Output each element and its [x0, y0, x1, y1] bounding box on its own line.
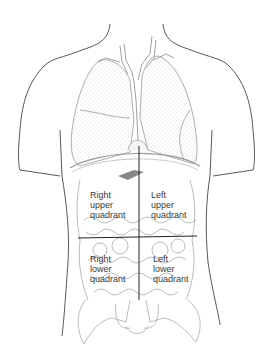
label-line: quadrant — [153, 274, 189, 284]
body-outline — [19, 24, 255, 336]
pelvis — [78, 300, 200, 344]
label-line: Right — [90, 254, 126, 264]
label-line: upper — [151, 200, 187, 210]
label-line: upper — [90, 200, 126, 210]
label-line: Left — [151, 190, 187, 200]
lungs — [71, 56, 197, 166]
label-left-lower-quadrant: Left lower quadrant — [153, 254, 189, 284]
liver — [118, 170, 144, 180]
anatomy-diagram: Right upper quadrant Left upper quadrant… — [0, 0, 273, 362]
label-line: quadrant — [90, 210, 126, 220]
label-right-lower-quadrant: Right lower quadrant — [90, 254, 126, 284]
horizontal-umbilical-line — [78, 236, 197, 238]
label-line: Right — [90, 190, 126, 200]
label-line: lower — [90, 264, 126, 274]
label-right-upper-quadrant: Right upper quadrant — [90, 190, 126, 220]
label-line: Left — [153, 254, 189, 264]
label-line: quadrant — [151, 210, 187, 220]
label-left-upper-quadrant: Left upper quadrant — [151, 190, 187, 220]
torso-illustration — [0, 0, 273, 362]
label-line: lower — [153, 264, 189, 274]
label-line: quadrant — [90, 274, 126, 284]
